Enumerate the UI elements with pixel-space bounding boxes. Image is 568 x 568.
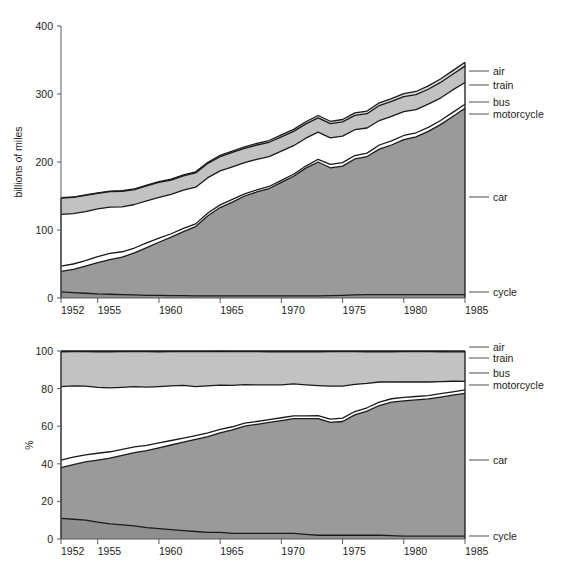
x-tick-label: 1965 [220, 545, 244, 557]
y-tick-label: 60 [41, 420, 53, 432]
x-tick-label: 1975 [343, 545, 367, 557]
x-tick-label: 1980 [404, 304, 428, 316]
y-tick-label: 100 [35, 224, 53, 236]
y-tick-label: 80 [41, 383, 53, 395]
x-tick-label: 1952 [61, 545, 85, 557]
x-tick-label: 1985 [465, 545, 489, 557]
x-tick-label: 1952 [61, 304, 85, 316]
x-tick-label: 1970 [281, 545, 305, 557]
x-tick-label: 1970 [281, 304, 305, 316]
x-tick-label: 1965 [220, 304, 244, 316]
series-label-bus: bus [493, 367, 510, 379]
x-tick-label: 1980 [404, 545, 428, 557]
chart-panel-percentage: 0204060801001952195519601965197019751980… [23, 341, 544, 557]
y-tick-label: 20 [41, 495, 53, 507]
y-axis-title: billions of miles [12, 126, 24, 197]
y-axis-title: % [23, 440, 35, 449]
y-tick-label: 200 [35, 156, 53, 168]
x-tick-label: 1960 [159, 545, 183, 557]
series-label-motorcycle: motorcycle [493, 108, 544, 120]
y-tick-label: 400 [35, 20, 53, 32]
y-tick-label: 300 [35, 88, 53, 100]
x-tick-label: 1985 [465, 304, 489, 316]
x-tick-label: 1960 [159, 304, 183, 316]
series-label-train: train [493, 79, 514, 91]
y-tick-label: 100 [35, 345, 53, 357]
y-tick-label: 0 [47, 292, 53, 304]
series-label-air: air [493, 65, 505, 77]
series-label-cycle: cycle [493, 286, 517, 298]
series-label-bus: bus [493, 96, 510, 108]
chart-panel-absolute: 0100200300400195219551960196519701975198… [12, 20, 544, 316]
series-label-cycle: cycle [493, 530, 517, 542]
series-label-car: car [493, 454, 508, 466]
series-label-train: train [493, 352, 514, 364]
y-tick-label: 40 [41, 458, 53, 470]
figure-container: 0100200300400195219551960196519701975198… [0, 0, 568, 568]
y-tick-label: 0 [47, 533, 53, 545]
x-tick-label: 1955 [98, 545, 122, 557]
x-tick-label: 1975 [343, 304, 367, 316]
series-label-motorcycle: motorcycle [493, 379, 544, 391]
stacked-area-chart-figure: 0100200300400195219551960196519701975198… [0, 0, 568, 568]
series-label-car: car [493, 191, 508, 203]
x-tick-label: 1955 [98, 304, 122, 316]
